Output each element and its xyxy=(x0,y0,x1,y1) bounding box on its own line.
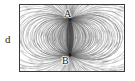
pole-label-b: B xyxy=(62,56,69,66)
figure-side-label: d xyxy=(5,34,11,45)
field-line-figure: d A B xyxy=(0,0,135,81)
pole-label-a: A xyxy=(64,9,71,19)
